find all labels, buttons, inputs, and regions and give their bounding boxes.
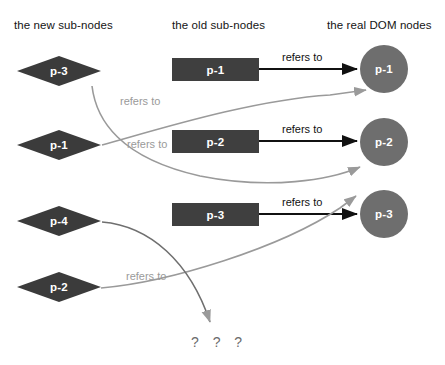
unknown-target-label: ? ? ? — [191, 334, 247, 350]
new-sub-node-p1-label: p-1 — [50, 139, 68, 151]
dom-node-p2-label: p-2 — [375, 136, 393, 148]
diagram-canvas: the new sub-nodes the old sub-nodes the … — [0, 0, 445, 365]
new-sub-node-p3[interactable]: p-3 — [17, 56, 101, 86]
old-sub-node-p1-label: p-1 — [207, 64, 225, 76]
column-header-old-sub-nodes: the old sub-nodes — [172, 19, 265, 31]
old-sub-node-p2-label: p-2 — [207, 136, 225, 148]
dom-node-p1[interactable]: p-1 — [360, 45, 408, 93]
new-sub-node-p2-label: p-2 — [50, 281, 68, 293]
dom-node-p3[interactable]: p-3 — [360, 190, 408, 238]
new-sub-node-p4[interactable]: p-4 — [17, 206, 101, 236]
new-sub-node-p1[interactable]: p-1 — [17, 130, 101, 160]
old-sub-node-p3-label: p-3 — [207, 209, 225, 221]
edge-label-new-p3: refers to — [127, 138, 167, 150]
column-header-new-sub-nodes: the new sub-nodes — [14, 19, 113, 31]
new-sub-node-p3-label: p-3 — [50, 65, 68, 77]
edge-label-old-p3: refers to — [282, 196, 322, 208]
edge-label-new-p1: refers to — [120, 95, 160, 107]
new-sub-node-p4-label: p-4 — [50, 215, 68, 227]
edge-label-old-p2: refers to — [282, 123, 322, 135]
dom-node-p3-label: p-3 — [375, 208, 393, 220]
edge-label-new-p2: refers to — [126, 270, 166, 282]
old-sub-node-p2[interactable]: p-2 — [172, 130, 259, 153]
old-sub-node-p1[interactable]: p-1 — [172, 58, 259, 81]
dom-node-p1-label: p-1 — [375, 63, 393, 75]
dom-node-p2[interactable]: p-2 — [360, 118, 408, 166]
edge-label-old-p1: refers to — [282, 51, 322, 63]
column-header-real-dom-nodes: the real DOM nodes — [327, 19, 432, 31]
old-sub-node-p3[interactable]: p-3 — [172, 203, 259, 226]
new-sub-node-p2[interactable]: p-2 — [17, 272, 101, 302]
